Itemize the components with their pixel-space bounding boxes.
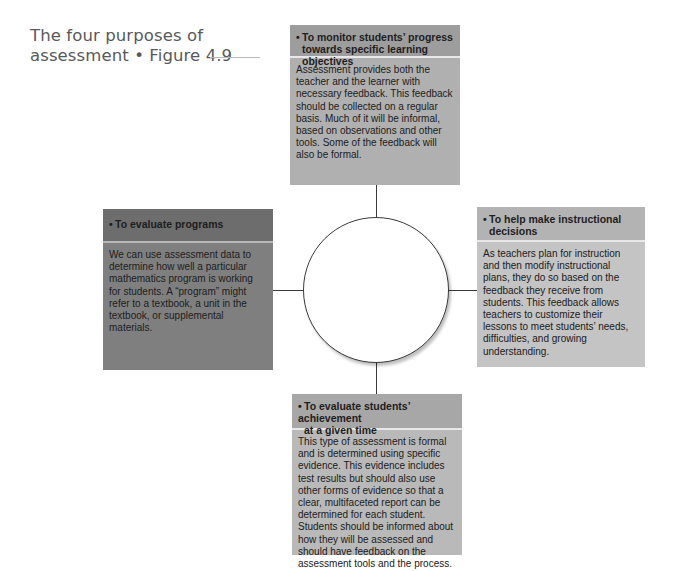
purpose-box-evaluate-programs: •To evaluate programs We can use assessm… — [103, 209, 273, 370]
figure-title-line2: assessment • Figure 4.9 — [30, 46, 270, 66]
figure-title: The four purposes of assessment • Figure… — [30, 26, 270, 66]
box-body: Assessment provides both the teacher and… — [290, 58, 460, 168]
connector-left — [273, 290, 304, 291]
title-rule — [210, 57, 260, 58]
box-heading-line2: decisions — [483, 225, 639, 237]
connector-bottom — [376, 362, 377, 394]
box-heading-line1: To monitor students’ progress — [302, 31, 453, 43]
box-heading-line1: To evaluate students’ achievement — [298, 400, 410, 424]
box-heading: •To help make instructional decisions — [477, 207, 645, 242]
connector-top — [376, 185, 377, 218]
box-heading-line1: To help make instructional — [489, 213, 621, 225]
box-body: We can use assessment data to determine … — [103, 243, 273, 340]
connector-right — [448, 290, 477, 291]
box-heading: •To monitor students’ progress towards s… — [290, 25, 460, 58]
purpose-box-evaluate-achievement: •To evaluate students’ achievement at a … — [292, 394, 462, 555]
purpose-box-instructional-decisions: •To help make instructional decisions As… — [477, 207, 645, 367]
box-body: This type of assessment is formal and is… — [292, 430, 462, 571]
center-circle — [303, 217, 449, 363]
box-heading-line1: To evaluate programs — [115, 218, 223, 230]
figure-title-line1: The four purposes of — [30, 26, 270, 46]
purpose-box-monitor-progress: •To monitor students’ progress towards s… — [290, 25, 460, 185]
box-body: As teachers plan for instruction and the… — [477, 242, 645, 364]
box-heading: •To evaluate programs — [103, 209, 273, 243]
box-heading: •To evaluate students’ achievement at a … — [292, 394, 462, 430]
